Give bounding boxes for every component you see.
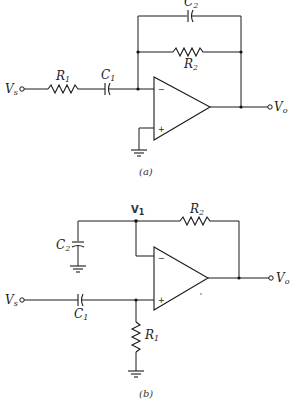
inverting-input-sign: −	[158, 85, 165, 94]
resistor-r1-icon	[48, 85, 80, 93]
r1-label: R1	[55, 69, 70, 84]
stray-mark	[200, 293, 202, 295]
c1-label: C1	[74, 307, 88, 322]
junction-dot	[237, 276, 240, 279]
output-terminal-icon	[268, 105, 272, 109]
input-terminal-icon	[20, 87, 24, 91]
c2-label: C2	[56, 238, 70, 253]
ground-icon	[131, 150, 147, 156]
resistor-r1-icon	[132, 322, 140, 352]
output-label: Vo	[274, 100, 288, 115]
ground-icon	[128, 371, 144, 377]
input-terminal-icon	[20, 298, 24, 302]
noninverting-input-sign: +	[158, 296, 165, 305]
junction-dot	[136, 50, 139, 53]
node-v1-handwritten-label: V1	[131, 204, 145, 217]
r1-label: R1	[144, 328, 159, 343]
ground-icon	[70, 266, 86, 272]
junction-dot	[239, 105, 242, 108]
noninverting-input-sign: +	[158, 125, 165, 134]
c1-label: C1	[101, 68, 115, 83]
resistor-r2-icon	[173, 48, 205, 56]
input-label: Vs	[5, 293, 18, 308]
figure-b-noninverting-bandpass: R2 V1 C2 − + Vo Vs	[5, 202, 290, 399]
input-label: Vs	[5, 82, 18, 97]
output-terminal-icon	[269, 276, 273, 280]
r2-label: R2	[183, 57, 198, 72]
figure-a-caption: (a)	[139, 166, 153, 177]
output-label: Vo	[276, 271, 290, 286]
resistor-r2-icon	[180, 217, 212, 225]
c2-label: C2	[184, 0, 198, 10]
figure-a-inverting-bandpass: Vs R1 C1 C2 R2 −	[5, 0, 288, 177]
circuit-diagram: Vs R1 C1 C2 R2 −	[0, 0, 304, 400]
r2-label: R2	[189, 202, 204, 217]
figure-b-caption: (b)	[139, 388, 153, 399]
inverting-input-sign: −	[158, 254, 165, 263]
